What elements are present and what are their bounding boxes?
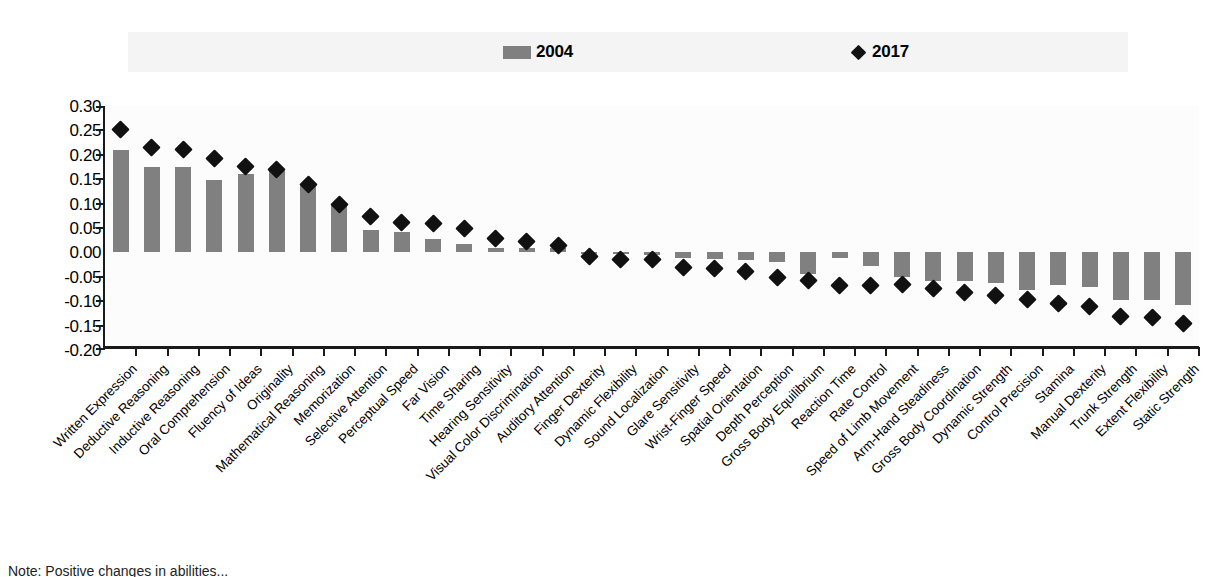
x-tick-mark [229, 347, 231, 356]
x-tick-mark [792, 347, 794, 356]
chart-bar [1113, 252, 1129, 300]
chart-bar [1019, 252, 1035, 290]
x-tick-mark [385, 347, 387, 356]
y-tick-mark [96, 325, 105, 327]
x-tick-mark [1135, 347, 1137, 356]
legend-bar-swatch-icon [503, 46, 531, 59]
chart-bar [456, 244, 472, 253]
legend-entry-2017: 2017 [853, 42, 909, 62]
chart-bar [1050, 252, 1066, 284]
legend-entry-2004: 2004 [503, 42, 573, 62]
y-tick-mark [96, 154, 105, 156]
y-axis-cap-top [96, 106, 105, 108]
x-tick-mark [323, 347, 325, 356]
legend-diamond-marker-icon [851, 44, 867, 60]
y-tick-mark [96, 276, 105, 278]
x-tick-mark [667, 347, 669, 356]
x-tick-mark [948, 347, 950, 356]
x-tick-mark [1104, 347, 1106, 356]
y-tick-mark [96, 178, 105, 180]
chart-bar [394, 232, 410, 252]
chart-area: 0.300.250.200.150.100.050.00-0.05-0.10-0… [0, 95, 1212, 360]
x-tick-mark [729, 347, 731, 356]
x-tick-mark [198, 347, 200, 356]
chart-note: Note: Positive changes in abilities... [8, 563, 1108, 577]
x-tick-mark [354, 347, 356, 356]
chart-bar [894, 252, 910, 276]
chart-bar [957, 252, 973, 280]
chart-bar [363, 230, 379, 252]
chart-bar [1175, 252, 1191, 305]
chart-bar [144, 167, 160, 252]
y-axis-tick-labels: 0.300.250.200.150.100.050.00-0.05-0.10-0… [55, 95, 101, 360]
x-tick-mark [135, 347, 137, 356]
chart-bar [925, 252, 941, 280]
x-tick-mark [635, 347, 637, 356]
chart-legend: 2004 2017 [128, 32, 1128, 72]
y-tick-mark [96, 227, 105, 229]
chart-bar [1082, 252, 1098, 286]
x-tick-mark [448, 347, 450, 356]
y-tick-mark [96, 203, 105, 205]
x-tick-mark [885, 347, 887, 356]
x-tick-mark [823, 347, 825, 356]
x-tick-mark [292, 347, 294, 356]
x-tick-mark [698, 347, 700, 356]
legend-label-2017: 2017 [872, 42, 909, 62]
chart-bar [832, 252, 848, 257]
chart-bar [113, 150, 129, 252]
x-tick-mark [417, 347, 419, 356]
y-axis-cap-bottom [96, 348, 105, 350]
chart-bar [300, 185, 316, 252]
chart-bar [425, 239, 441, 253]
x-tick-mark [854, 347, 856, 356]
x-tick-mark [1167, 347, 1169, 356]
chart-bar [269, 171, 285, 252]
x-tick-mark [979, 347, 981, 356]
chart-bar [988, 252, 1004, 282]
x-tick-mark [1010, 347, 1012, 356]
legend-label-2004: 2004 [536, 42, 573, 62]
chart-bar [488, 248, 504, 253]
chart-bar [738, 252, 754, 260]
zero-baseline [105, 346, 1199, 349]
chart-bar [238, 174, 254, 252]
y-tick-label: -0.20 [64, 342, 101, 359]
x-tick-mark [167, 347, 169, 356]
x-tick-mark [760, 347, 762, 356]
chart-bar [707, 252, 723, 259]
chart-bar [175, 167, 191, 252]
x-tick-mark [917, 347, 919, 356]
x-tick-mark [1073, 347, 1075, 356]
y-tick-mark [96, 129, 105, 131]
x-tick-mark [542, 347, 544, 356]
chart-bar [863, 252, 879, 266]
chart-bar [769, 252, 785, 262]
x-tick-mark [1198, 347, 1200, 356]
x-tick-mark [510, 347, 512, 356]
x-axis-category-labels: Written ExpressionDeductive ReasoningInd… [0, 362, 1212, 532]
x-tick-mark [604, 347, 606, 356]
chart-bar [1144, 252, 1160, 300]
y-tick-mark [96, 300, 105, 302]
chart-bar [206, 180, 222, 252]
x-tick-mark [1042, 347, 1044, 356]
x-tick-mark [260, 347, 262, 356]
x-tick-mark [573, 347, 575, 356]
y-tick-label: 0.00 [70, 244, 102, 261]
x-tick-mark [479, 347, 481, 356]
